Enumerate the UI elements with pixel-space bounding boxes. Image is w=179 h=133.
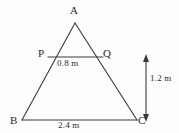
height-arrow-head-up: [143, 54, 149, 62]
side-AC-line: [75, 23, 137, 120]
vertex-label-a: A: [70, 5, 78, 16]
side-AB-line: [22, 23, 75, 120]
vertex-label-c: C: [138, 115, 145, 126]
figure-canvas: [0, 0, 179, 133]
height-dimension-arrow: [143, 54, 149, 122]
vertex-label-b: B: [10, 115, 17, 126]
dimension-label-height: 1.2 m: [150, 74, 172, 83]
dimension-label-bc: 2.4 m: [58, 121, 80, 130]
dimension-label-pq: 0.8 m: [57, 59, 79, 68]
vertex-label-q: Q: [103, 48, 111, 59]
vertex-label-p: P: [38, 48, 44, 59]
geometry-figure: A P Q B C 0.8 m 2.4 m 1.2 m: [0, 0, 179, 133]
triangle-outline: [22, 23, 137, 120]
